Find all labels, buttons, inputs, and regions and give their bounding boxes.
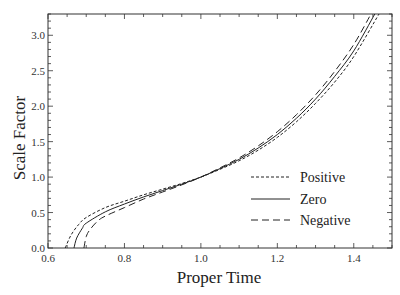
legend-item-positive: Positive bbox=[251, 170, 345, 185]
y-tick-label: 2.0 bbox=[31, 100, 45, 112]
legend-label: Negative bbox=[300, 213, 351, 228]
legend: PositiveZeroNegative bbox=[251, 170, 351, 228]
legend-label: Zero bbox=[300, 192, 326, 207]
y-axis-title: Scale Factor bbox=[10, 95, 29, 180]
y-tick-label: 1.0 bbox=[31, 171, 45, 183]
x-tick-label: 0.8 bbox=[118, 252, 132, 264]
y-tick-label: 3.0 bbox=[31, 29, 45, 41]
y-tick-label: 0.5 bbox=[31, 207, 45, 219]
x-tick-label: 1.0 bbox=[194, 252, 208, 264]
legend-label: Positive bbox=[300, 170, 345, 185]
legend-item-negative: Negative bbox=[251, 213, 351, 228]
x-tick-label: 1.2 bbox=[270, 252, 284, 264]
chart: 0.60.81.01.21.4 0.00.51.01.52.02.53.0 Po… bbox=[0, 0, 400, 295]
x-tick-label: 1.4 bbox=[347, 252, 361, 264]
x-axis-title: Proper Time bbox=[177, 268, 262, 287]
y-tick-label: 0.0 bbox=[31, 242, 45, 254]
legend-item-zero: Zero bbox=[251, 192, 326, 207]
y-tick-label: 2.5 bbox=[31, 65, 45, 77]
y-tick-label: 1.5 bbox=[31, 136, 45, 148]
